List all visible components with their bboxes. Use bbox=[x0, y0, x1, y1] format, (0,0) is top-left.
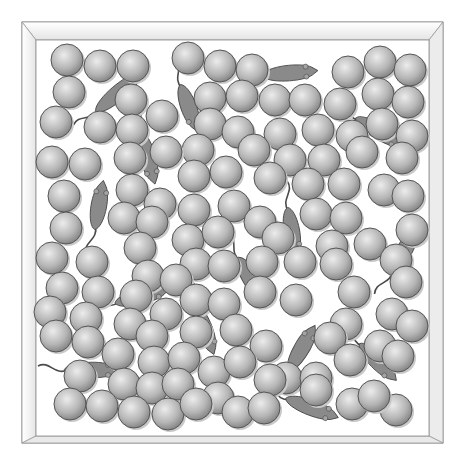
ball bbox=[36, 146, 68, 178]
ball bbox=[254, 162, 286, 194]
ball bbox=[152, 398, 184, 430]
ball bbox=[320, 248, 352, 280]
ball bbox=[120, 280, 152, 312]
ball bbox=[48, 180, 80, 212]
ball bbox=[180, 388, 212, 420]
ball bbox=[220, 314, 252, 346]
ball bbox=[284, 246, 316, 278]
ball bbox=[396, 310, 428, 342]
ball bbox=[358, 380, 390, 412]
ball bbox=[324, 88, 356, 120]
ball bbox=[72, 326, 104, 358]
ball bbox=[69, 148, 101, 180]
ball bbox=[53, 76, 85, 108]
ball bbox=[172, 42, 204, 74]
ball bbox=[300, 198, 332, 230]
ball bbox=[118, 396, 150, 428]
ball bbox=[330, 202, 362, 234]
ball bbox=[40, 106, 72, 138]
ball bbox=[76, 246, 108, 278]
ball bbox=[244, 276, 276, 308]
ball bbox=[116, 174, 148, 206]
ball bbox=[210, 156, 242, 188]
ball bbox=[248, 392, 280, 424]
ball bbox=[332, 56, 364, 88]
ball bbox=[394, 54, 426, 86]
ball bbox=[226, 80, 258, 112]
ball bbox=[124, 232, 156, 264]
ball bbox=[259, 84, 291, 116]
ball bbox=[224, 346, 256, 378]
ball bbox=[86, 390, 118, 422]
ball bbox=[202, 216, 234, 248]
ball bbox=[292, 168, 324, 200]
ball bbox=[204, 50, 236, 82]
ball bbox=[280, 284, 312, 316]
ball bbox=[334, 344, 366, 376]
ball bbox=[114, 142, 146, 174]
ball bbox=[390, 266, 422, 298]
ball bbox=[36, 242, 68, 274]
ball bbox=[64, 360, 96, 392]
ball bbox=[51, 44, 83, 76]
ball bbox=[289, 84, 321, 116]
ball bbox=[362, 78, 394, 110]
ball bbox=[386, 142, 418, 174]
ball bbox=[346, 136, 378, 168]
ball bbox=[338, 276, 370, 308]
box-illustration bbox=[0, 0, 465, 465]
ball bbox=[178, 194, 210, 226]
ball bbox=[117, 50, 149, 82]
ball bbox=[146, 100, 178, 132]
ball bbox=[254, 364, 286, 396]
ball bbox=[178, 160, 210, 192]
ball bbox=[382, 340, 414, 372]
ball bbox=[328, 168, 360, 200]
ball bbox=[115, 84, 147, 116]
ball bbox=[300, 374, 332, 406]
ball bbox=[246, 246, 278, 278]
ball bbox=[396, 214, 428, 246]
ball bbox=[84, 111, 116, 143]
ball bbox=[116, 114, 148, 146]
ball bbox=[364, 46, 396, 78]
ball bbox=[366, 108, 398, 140]
ball bbox=[238, 134, 270, 166]
ball bbox=[40, 320, 72, 352]
ball bbox=[54, 388, 86, 420]
ball bbox=[392, 180, 424, 212]
ball bbox=[108, 202, 140, 234]
ball bbox=[208, 250, 240, 282]
ball bbox=[102, 338, 134, 370]
ball bbox=[50, 212, 82, 244]
ball bbox=[392, 86, 424, 118]
ball bbox=[180, 284, 212, 316]
ball bbox=[302, 114, 334, 146]
ball bbox=[150, 136, 182, 168]
ball bbox=[84, 50, 116, 82]
